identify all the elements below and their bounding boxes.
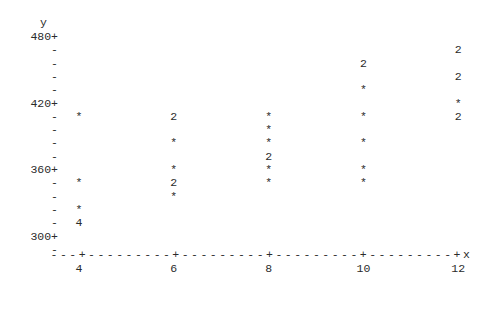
data-point-marker: * bbox=[356, 137, 370, 149]
data-point-marker: * bbox=[356, 177, 370, 189]
x-axis-tick-label-6: 6 bbox=[164, 263, 184, 275]
data-point-marker: * bbox=[262, 137, 276, 149]
x-axis-tick-label-4: 4 bbox=[69, 263, 89, 275]
ascii-scatter-plot: y480+----420+----360+----300+-222***2**2… bbox=[0, 0, 489, 317]
data-point-marker: 2 bbox=[167, 177, 181, 189]
data-point-marker: 2 bbox=[356, 58, 370, 70]
y-axis-tick-label-300: 300+ bbox=[12, 231, 58, 243]
x-axis-tick-label-12: 12 bbox=[448, 263, 468, 275]
data-point-marker: * bbox=[72, 111, 86, 123]
y-axis-minor-tick-312: - bbox=[12, 217, 58, 229]
y-axis-minor-tick-444: - bbox=[12, 71, 58, 83]
data-point-marker: 2 bbox=[451, 111, 465, 123]
data-point-marker: * bbox=[262, 124, 276, 136]
y-axis-tick-label-480: 480+ bbox=[12, 31, 58, 43]
data-point-marker: * bbox=[262, 111, 276, 123]
y-axis-title: y bbox=[40, 17, 47, 29]
data-point-marker: * bbox=[262, 164, 276, 176]
data-point-marker: * bbox=[356, 111, 370, 123]
data-point-marker: 4 bbox=[72, 217, 86, 229]
data-point-marker: * bbox=[451, 98, 465, 110]
y-axis-minor-tick-456: - bbox=[12, 58, 58, 70]
data-point-marker: * bbox=[72, 177, 86, 189]
y-axis-minor-tick-432: - bbox=[12, 84, 58, 96]
y-axis-minor-tick-384: - bbox=[12, 137, 58, 149]
data-point-marker: * bbox=[167, 191, 181, 203]
data-point-marker: 2 bbox=[451, 44, 465, 56]
y-axis-minor-tick-324: - bbox=[12, 204, 58, 216]
data-point-marker: * bbox=[356, 84, 370, 96]
y-axis-tick-label-420: 420+ bbox=[12, 98, 58, 110]
x-axis-line: ---+---------+---------+---------+------… bbox=[51, 249, 473, 261]
data-point-marker: * bbox=[167, 137, 181, 149]
x-axis-tick-label-8: 8 bbox=[259, 263, 279, 275]
y-axis-minor-tick-408: - bbox=[12, 111, 58, 123]
data-point-marker: 2 bbox=[262, 151, 276, 163]
data-point-marker: * bbox=[167, 164, 181, 176]
y-axis-minor-tick-396: - bbox=[12, 124, 58, 136]
x-axis-tick-label-10: 10 bbox=[353, 263, 373, 275]
y-axis-minor-tick-348: - bbox=[12, 177, 58, 189]
data-point-marker: 2 bbox=[167, 111, 181, 123]
y-axis-minor-tick-336: - bbox=[12, 191, 58, 203]
y-axis-minor-tick-372: - bbox=[12, 151, 58, 163]
y-axis-minor-tick-468: - bbox=[12, 44, 58, 56]
data-point-marker: 2 bbox=[451, 71, 465, 83]
y-axis-tick-label-360: 360+ bbox=[12, 164, 58, 176]
data-point-marker: * bbox=[72, 204, 86, 216]
data-point-marker: * bbox=[262, 177, 276, 189]
data-point-marker: * bbox=[356, 164, 370, 176]
